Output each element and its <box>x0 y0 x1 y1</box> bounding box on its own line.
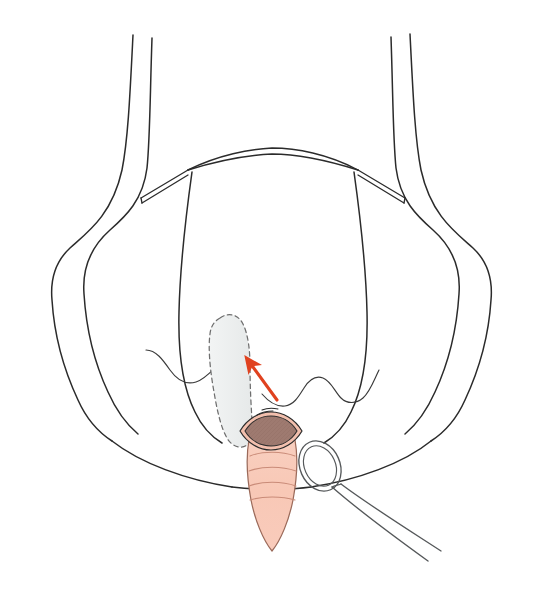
surgical-illustration-figure: Labial flap harvest for vaginal reconstr… <box>0 0 543 598</box>
illustration-canvas <box>0 0 543 598</box>
